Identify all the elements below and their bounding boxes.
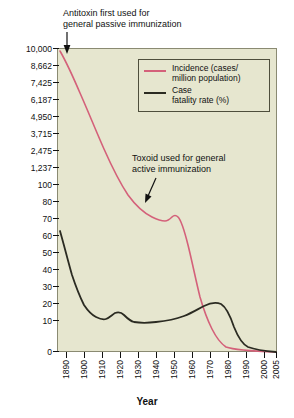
diphtheria-incidence-chart: 10,000 8,662 7,425 6,187 4,950 3,715 2,4… <box>0 0 294 418</box>
annotation-toxoid-arrow <box>0 0 294 418</box>
